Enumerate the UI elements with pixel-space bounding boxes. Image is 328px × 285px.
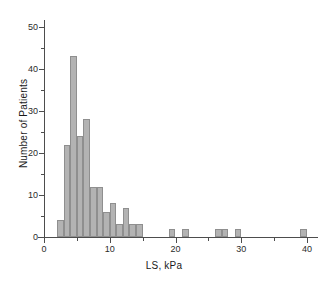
y-axis-tick: [41, 216, 44, 217]
y-axis-tick: [41, 174, 44, 175]
x-axis-tick: [44, 238, 45, 243]
y-axis-tick-label: 0: [16, 233, 38, 242]
x-axis-tick-label: 0: [29, 244, 59, 254]
plot-area: 010203040 01020304050 LS, kPa Number of …: [0, 0, 328, 285]
histogram-bar: [222, 229, 229, 237]
x-axis-label: LS, kPa: [0, 260, 328, 271]
y-axis-tick-label: 50: [16, 23, 38, 32]
histogram-bar: [64, 145, 71, 237]
histogram-bar: [57, 220, 64, 237]
y-axis-tick: [41, 132, 44, 133]
histogram-bar: [97, 187, 104, 237]
y-axis-label: Number of Patients: [18, 44, 29, 204]
histogram-bar: [169, 229, 176, 237]
histogram-bar: [103, 212, 110, 237]
y-axis-tick: [41, 90, 44, 91]
y-axis-line: [44, 20, 45, 238]
x-axis-tick: [241, 238, 242, 243]
x-axis-tick: [110, 238, 111, 243]
y-axis-tick: [41, 48, 44, 49]
histogram-bar: [182, 229, 189, 237]
x-axis-tick: [208, 238, 209, 241]
histogram-bar: [110, 203, 117, 237]
x-axis-tick-label: 30: [226, 244, 256, 254]
histogram-bar: [83, 119, 90, 237]
x-axis-tick: [307, 238, 308, 243]
histogram-bar: [136, 224, 143, 237]
y-axis-tick: [39, 153, 44, 154]
histogram-bar: [215, 229, 222, 237]
histogram-bar: [300, 229, 307, 237]
x-axis-tick: [176, 238, 177, 243]
y-axis-tick: [39, 27, 44, 28]
x-axis-tick: [274, 238, 275, 241]
histogram-figure: 010203040 01020304050 LS, kPa Number of …: [0, 0, 328, 285]
y-axis-tick: [39, 111, 44, 112]
histogram-bar: [123, 208, 130, 237]
histogram-bar: [235, 229, 242, 237]
x-axis-tick-label: 20: [161, 244, 191, 254]
x-axis-tick-label: 10: [95, 244, 125, 254]
y-axis-tick: [39, 195, 44, 196]
x-axis-line: [38, 237, 318, 238]
histogram-bar: [70, 56, 77, 237]
y-axis-tick: [39, 69, 44, 70]
x-axis-tick: [143, 238, 144, 241]
histogram-bar: [90, 187, 97, 237]
x-axis-tick-label: 40: [292, 244, 322, 254]
y-axis-tick: [39, 237, 44, 238]
bar-series: [0, 0, 328, 285]
histogram-bar: [129, 224, 136, 237]
x-axis-tick: [77, 238, 78, 241]
